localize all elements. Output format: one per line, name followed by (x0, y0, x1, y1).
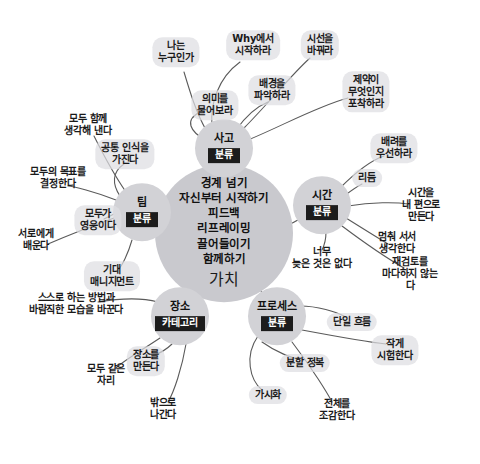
leaf-time-on-my-side[interactable]: 시간을 내 편으로 만든다 (392, 184, 451, 225)
leaf-rhythm[interactable]: 리듬 (352, 169, 382, 187)
leaf-see-whole[interactable]: 전체를 조감한다 (313, 395, 360, 425)
leaf-single-flow[interactable]: 단일 흐름 (327, 313, 377, 331)
hub-place-title: 장소 (170, 301, 190, 314)
leaf-who-am-i[interactable]: 나는 누구인가 (152, 37, 199, 67)
hub-team[interactable]: 팀 분류 (113, 164, 171, 260)
hub-time[interactable]: 시간 분류 (293, 157, 351, 253)
leaf-make-place[interactable]: 장소를 만든다 (127, 346, 165, 376)
hub-time-tag: 분류 (306, 205, 338, 220)
leaf-go-outside[interactable]: 밖으로 나간다 (144, 394, 182, 424)
hub-process-tag: 분류 (261, 316, 293, 331)
hub-time-title: 시간 (312, 190, 332, 203)
mind-map-canvas: 경계 넘기 자신부터 시작하기 피드백 리프레이밍 끌어들이기 함께하기 가치 … (0, 0, 480, 464)
leaf-all-heroes[interactable]: 모두가 영웅이다 (74, 205, 121, 235)
center-node-tag: 가치 (209, 271, 239, 290)
leaf-never-too-late[interactable]: 너무 늦은 것은 없다 (286, 243, 357, 273)
leaf-ask-meaning[interactable]: 의미를 물어보라 (191, 90, 238, 120)
hub-thinking-title: 사고 (214, 133, 234, 146)
leaf-review-always[interactable]: 재검토를 마다하지 않는다 (375, 253, 445, 294)
leaf-think-together[interactable]: 모두 함께 생각해 낸다 (58, 110, 117, 140)
leaf-shared-awareness[interactable]: 공통 인식을 가진다 (95, 139, 154, 169)
leaf-test-small[interactable]: 작게 시험한다 (371, 335, 418, 365)
leaf-decide-goal[interactable]: 모두의 목표를 결정한다 (24, 163, 92, 193)
leaf-visualize[interactable]: 가시화 (249, 386, 287, 404)
leaf-divide-conquer[interactable]: 분할 정복 (280, 354, 330, 372)
hub-process-title: 프로세스 (257, 301, 296, 314)
leaf-start-with-why[interactable]: Why에서 시작하라 (226, 30, 280, 60)
hub-process[interactable]: 프로세스 분류 (248, 268, 306, 364)
leaf-change-method[interactable]: 스스로 하는 방법과 바람직한 모습을 바꾼다 (23, 289, 130, 319)
leaf-same-seat[interactable]: 모두 같은 자리 (81, 360, 131, 390)
leaf-grasp-context[interactable]: 배경을 파악하라 (248, 75, 295, 105)
leaf-catch-constraint[interactable]: 제약이 무엇인지 포착하라 (342, 71, 389, 112)
hub-team-tag: 분류 (126, 212, 158, 227)
hub-team-title: 팀 (137, 197, 147, 210)
leaf-learn-each[interactable]: 서로에게 배운다 (12, 225, 59, 255)
leaf-care-first[interactable]: 배려를 우선하라 (370, 133, 417, 163)
hub-thinking-tag: 분류 (208, 148, 240, 163)
hub-place-tag: 카테고리 (155, 316, 204, 331)
leaf-change-view[interactable]: 시선을 바꿔라 (301, 30, 339, 60)
leaf-expect-mgmt[interactable]: 기대 매니지먼트 (84, 261, 140, 291)
